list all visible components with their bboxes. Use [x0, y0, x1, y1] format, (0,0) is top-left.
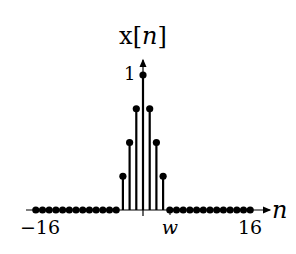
stem-marker — [227, 206, 234, 213]
stem-marker — [160, 173, 167, 180]
stem-marker — [86, 206, 93, 213]
x-axis-label: n — [272, 196, 287, 224]
stem-marker — [106, 206, 113, 213]
stem-marker — [93, 206, 100, 213]
stem-marker — [113, 206, 120, 213]
stem-marker — [46, 206, 53, 213]
x-tick-label-w: w — [162, 216, 178, 238]
stem-marker — [59, 206, 66, 213]
y-tick-label-1: 1 — [124, 63, 135, 84]
stem-plot: x[n] 1 n −16 w 16 — [0, 0, 296, 254]
stem-marker — [240, 206, 247, 213]
stem-marker — [133, 105, 140, 112]
stem-marker — [233, 206, 240, 213]
stem-marker — [186, 206, 193, 213]
stem-marker — [213, 206, 220, 213]
stem-series — [32, 71, 254, 213]
stem-marker — [247, 206, 254, 213]
stem-marker — [180, 206, 187, 213]
stem-marker — [79, 206, 86, 213]
stem-marker — [52, 206, 59, 213]
stem-marker — [119, 173, 126, 180]
stem-marker — [173, 206, 180, 213]
stem-marker — [39, 206, 46, 213]
stem-marker — [72, 206, 79, 213]
stem-marker — [146, 105, 153, 112]
x-tick-label-neg16: −16 — [20, 216, 60, 238]
stem-marker — [99, 206, 106, 213]
stem-marker — [66, 206, 73, 213]
stem-marker — [126, 139, 133, 146]
x-tick-label-16: 16 — [238, 216, 262, 238]
stem-marker — [32, 206, 39, 213]
y-axis-title: x[n] — [119, 22, 167, 50]
stem-marker — [153, 139, 160, 146]
stem-marker — [139, 71, 146, 78]
stem-marker — [166, 206, 173, 213]
stem-marker — [200, 206, 207, 213]
stem-marker — [220, 206, 227, 213]
stem-marker — [193, 206, 200, 213]
stem-marker — [206, 206, 213, 213]
